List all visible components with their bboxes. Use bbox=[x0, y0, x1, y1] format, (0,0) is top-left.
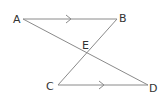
point-label-e: E bbox=[82, 39, 89, 52]
segment-ad bbox=[23, 19, 148, 85]
point-label-b: B bbox=[119, 12, 127, 25]
point-label-a: A bbox=[13, 13, 21, 26]
point-label-d: D bbox=[149, 82, 157, 95]
geometry-diagram: A B E C D bbox=[0, 0, 168, 96]
point-label-c: C bbox=[46, 80, 54, 93]
segment-bc bbox=[58, 19, 117, 85]
